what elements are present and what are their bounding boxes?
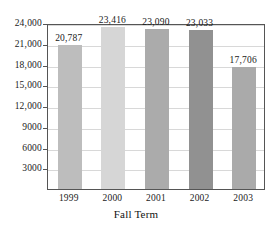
bar-value-label: 23,033 bbox=[170, 19, 230, 29]
y-axis-tick-label: 12,000 bbox=[15, 102, 42, 112]
bar bbox=[101, 27, 125, 189]
y-axis-tick-label: 9000 bbox=[22, 123, 42, 133]
y-axis-tick-label: 3000 bbox=[22, 164, 42, 174]
x-axis-title: Fall Term bbox=[0, 208, 272, 220]
bar bbox=[232, 67, 256, 189]
bar bbox=[189, 30, 213, 189]
y-axis-tick-label: 6000 bbox=[22, 144, 42, 154]
bar bbox=[58, 45, 82, 189]
x-axis-tick-label: 2003 bbox=[218, 193, 268, 203]
x-axis-tick-label: 2002 bbox=[175, 193, 225, 203]
y-axis-tick-label: 15,000 bbox=[15, 81, 42, 91]
bar bbox=[145, 29, 169, 189]
y-axis-tick-label: 18,000 bbox=[15, 61, 42, 71]
bar-value-label: 17,706 bbox=[213, 56, 272, 66]
x-axis-tick-label: 2001 bbox=[131, 193, 181, 203]
x-axis-tick-label: 1999 bbox=[44, 193, 94, 203]
bar-value-label: 20,787 bbox=[39, 34, 99, 44]
y-axis-tick-label: 24,000 bbox=[15, 19, 42, 29]
x-axis-tick-label: 2000 bbox=[87, 193, 137, 203]
bar-chart: 30006000900012,00015,00018,00021,00024,0… bbox=[0, 0, 272, 226]
plot-area bbox=[47, 24, 265, 190]
